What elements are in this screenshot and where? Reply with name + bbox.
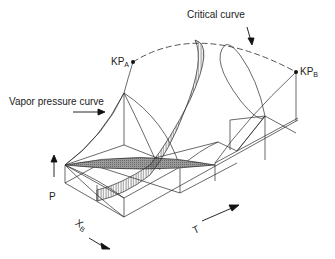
phase-diagram: Critical curve Vapor pressure curve KPA … [0, 0, 335, 259]
critical-curve [133, 43, 296, 72]
ellipse-phase-loop [220, 44, 265, 118]
kp-a-label-main: KP [111, 56, 124, 67]
kp-b-point [294, 70, 298, 74]
kp-b-label: KPB [300, 67, 318, 78]
p-axis-label: P [49, 192, 56, 202]
p-arrowhead [51, 155, 57, 162]
isobaric-lens-shaded [65, 158, 215, 170]
vapor-arrowhead [98, 109, 105, 115]
xb-arrowhead [101, 243, 110, 249]
upper-edge-t [215, 118, 298, 163]
annotation-arrows [51, 27, 254, 249]
back-curve [237, 116, 265, 151]
t-arrowhead [229, 205, 239, 211]
vapor-pressure-curve-label: Vapor pressure curve [9, 97, 104, 107]
base-front-edges [65, 120, 298, 217]
kp-a-label-sub: A [124, 61, 129, 68]
vapor-pressure-curve-b [215, 72, 296, 163]
critical-curve-arrowhead [248, 38, 254, 45]
rear-diag [265, 116, 296, 133]
critical-curve-label: Critical curve [187, 10, 245, 20]
kp-b-label-main: KP [300, 66, 313, 77]
kp-a-point [131, 60, 135, 64]
t-arrow-shaft [202, 208, 232, 221]
kp-b-label-sub: B [313, 71, 318, 78]
phase-diagram-svg [0, 0, 335, 259]
kp-a-label: KPA [111, 57, 129, 68]
